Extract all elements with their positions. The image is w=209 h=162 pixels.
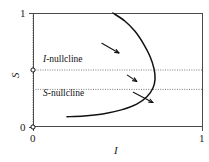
series-S-nullcline-curve [67, 13, 155, 117]
arrow-flow-arrow-middle [127, 75, 136, 81]
arrow-flow-arrow-upper [102, 43, 119, 53]
plot-drawing-layer [0, 0, 209, 162]
marker-equilibrium-upper [31, 68, 35, 72]
marker-equilibrium-origin [31, 125, 35, 129]
phase-plane-figure: 1 0 0 1 S I I-nullcline S-nullcline [0, 0, 209, 162]
